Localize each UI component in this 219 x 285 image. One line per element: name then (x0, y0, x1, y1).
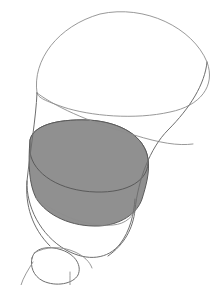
figure-canvas (0, 0, 219, 285)
vessel-line-drawing (0, 0, 219, 285)
